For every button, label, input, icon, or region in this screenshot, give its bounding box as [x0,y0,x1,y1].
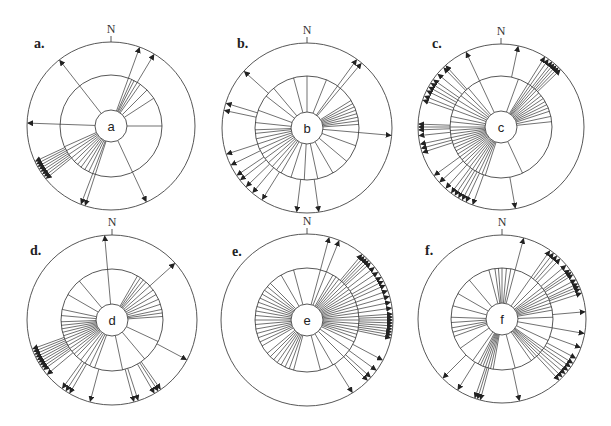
direction-arrow [510,177,515,208]
spoke-line [323,129,359,132]
direction-arrow [528,57,544,83]
direction-arrow [533,254,553,279]
spoke-line [264,290,293,311]
spoke-line [79,281,101,308]
direction-arrow [358,308,391,313]
panel-c: c.Nc [418,24,584,210]
direction-arrow [549,287,578,300]
spoke-line [479,81,494,113]
direction-arrow [60,61,80,86]
direction-arrow [63,361,82,388]
spoke-line [451,317,486,318]
direction-arrow [335,364,352,392]
direction-arrow [314,179,318,211]
direction-arrow [346,263,371,285]
spoke-line [511,332,531,361]
direction-arrow [150,264,175,286]
spoke-line [482,142,495,174]
spoke-line [451,320,486,322]
direction-arrow [550,336,580,347]
spoke-line [304,144,306,180]
panel-b: b.Nb [222,23,392,213]
direction-arrow [128,48,139,78]
spoke-line [322,302,356,314]
spoke-line [321,104,353,121]
direction-arrow [431,84,457,100]
direction-arrow [513,369,520,400]
panel-label: f. [425,243,433,258]
direction-arrow [297,180,301,212]
direction-arrow [446,66,467,89]
direction-arrow [443,355,466,378]
direction-arrow [344,357,367,380]
spoke-line [518,317,553,318]
direction-arrow [359,314,392,316]
direction-arrow [359,324,392,326]
spoke-line [95,141,106,174]
spoke-line [473,332,493,361]
direction-arrow [544,348,570,366]
panel-e: e.Ne [221,214,393,406]
panels-group: a.Nab.Nbc.Ncd.Nde.Nef.Nf [27,22,586,406]
center-label: f [500,312,504,327]
spoke-line [69,135,98,155]
spoke-line [517,303,550,314]
direction-arrow [66,363,84,391]
spoke-line [115,336,122,370]
spoke-line [274,88,297,116]
panel-f: f.Nf [418,215,586,403]
north-label: N [303,214,312,228]
spoke-line [127,327,159,342]
spoke-line [61,316,96,319]
direction-arrow [537,259,559,282]
spoke-line [508,142,523,174]
spoke-line [322,133,356,145]
direction-arrow [320,238,329,270]
panel-label: a. [34,36,45,51]
direction-arrow [357,297,389,306]
panel-a: a.Na [27,22,195,210]
spoke-line [81,139,102,167]
direction-arrow [157,344,186,359]
direction-arrow [227,103,258,112]
spoke-line [80,86,102,114]
panel-d: d.Nd [27,215,197,405]
direction-arrow [544,273,571,291]
direction-arrow [48,353,73,374]
spoke-line [108,269,111,304]
direction-arrow [539,354,562,376]
direction-arrow [353,344,382,359]
direction-arrow [359,322,392,323]
direction-arrow [435,157,460,175]
direction-arrow [455,169,472,195]
direction-arrow [473,175,484,204]
spoke-line [71,136,98,158]
direction-arrow [225,111,256,118]
direction-arrow [440,161,463,182]
spoke-line [255,129,291,130]
direction-arrow [419,129,450,130]
spoke-line [294,78,303,113]
direction-arrow [466,173,479,201]
direction-arrow [475,367,485,397]
center-label: b [303,121,310,136]
north-label: N [107,22,116,36]
spoke-line [267,287,295,310]
direction-arrow [343,259,366,283]
north-label: N [303,23,312,37]
panel-label: b. [237,36,248,51]
direction-arrow [349,351,376,370]
center-label: c [498,120,505,135]
spoke-line [125,290,153,311]
direction-arrow [535,256,556,280]
spoke-line [322,325,356,337]
spoke-line [122,332,144,359]
north-label: N [497,24,506,38]
direction-arrow [133,172,147,201]
center-label: e [303,313,310,328]
direction-arrow [542,350,567,370]
direction-arrow [512,47,518,77]
panel-label: d. [30,243,41,258]
direction-arrow [419,132,450,135]
spoke-line [513,283,538,308]
